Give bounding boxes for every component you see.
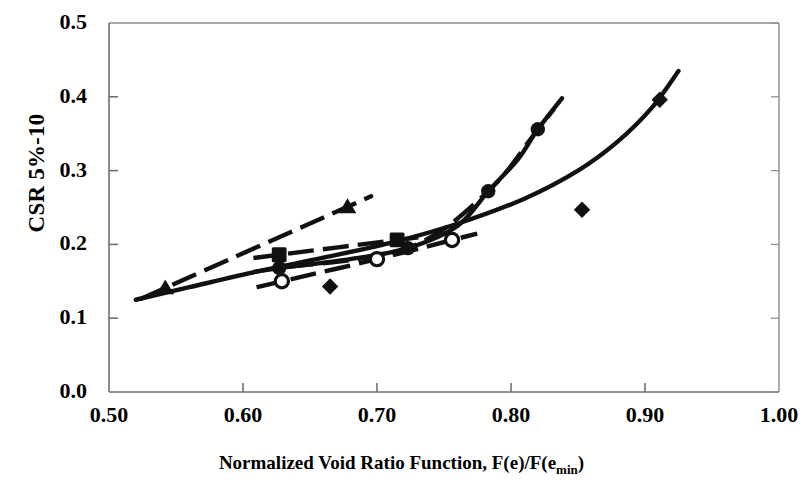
- diamond-series-point-1: [574, 202, 590, 218]
- triangle-series-point-0: [156, 280, 174, 295]
- chart-figure: CSR 5%-10 Normalized Void Ratio Function…: [0, 0, 803, 489]
- diamond-series-point-0: [322, 278, 338, 294]
- filled-circle-curve: [279, 98, 562, 268]
- open-circle-series-point-2: [445, 233, 458, 246]
- filled-circle-series-point-1: [401, 241, 415, 255]
- plot-area: [0, 0, 803, 489]
- open-circle-series-point-0: [275, 275, 288, 288]
- filled-circle-series-point-2: [481, 184, 495, 198]
- square-series-point-0: [272, 247, 287, 262]
- open-circle-series-point-1: [370, 253, 383, 266]
- filled-circle-series-point-3: [531, 122, 545, 136]
- filled-circle-series-point-0: [272, 261, 286, 275]
